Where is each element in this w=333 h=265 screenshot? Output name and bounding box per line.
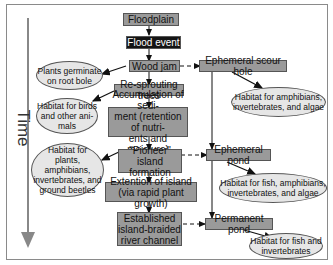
habitat-plants-germinate: Plants germinate on root bole <box>36 61 103 90</box>
node-ephemeral-scour-hole: Ephemeral scour hole <box>199 60 287 72</box>
node-wood-jam: Wood jam <box>129 60 180 72</box>
node-established-channel: Established island-braided river channel <box>117 212 182 246</box>
habitat-fish-invertebrates: Habitat for fish and invertebrates <box>249 233 323 259</box>
node-ephemeral-pond: Ephemeral pond <box>206 149 271 161</box>
habitat-fish-amphibians-algae: Habitat for fish, amphibians, invertebra… <box>219 173 327 203</box>
node-pioneer-island: "Pioneer" island formation <box>118 149 182 173</box>
node-permanent-pond: Permanent pond <box>205 218 273 230</box>
habitat-birds-animals: Habitat for birds and other ani- mals <box>36 98 98 134</box>
node-extension-island: Extention of island (via rapid plant gro… <box>105 182 197 202</box>
node-floodplain: Floodplain <box>123 13 179 26</box>
habitat-amphibians-algae: Habitat for amphibians, invertebrates, a… <box>231 87 326 117</box>
habitat-plants-amphibians-beetles: Habitat for plants, amphibians, inverteb… <box>31 143 104 197</box>
node-accumulation: Accumulation of sedi- ment (retention of… <box>108 107 188 137</box>
node-flood-event: Flood event <box>126 36 181 49</box>
